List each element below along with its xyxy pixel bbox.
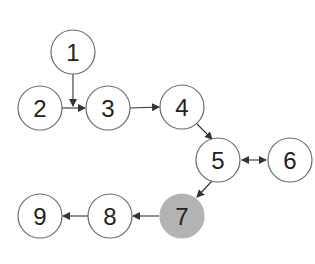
graph-diagram: 1 2 3 4 5 6 7 8 9 <box>0 0 315 264</box>
node-label: 4 <box>175 94 188 121</box>
node-label: 9 <box>33 203 46 230</box>
node-label: 6 <box>283 147 296 174</box>
node-7-highlighted: 7 <box>160 194 204 238</box>
node-5: 5 <box>196 138 240 182</box>
edge-5-to-7 <box>197 181 212 197</box>
node-9: 9 <box>18 194 62 238</box>
node-label: 3 <box>101 95 114 122</box>
node-label: 8 <box>103 203 116 230</box>
node-1: 1 <box>51 30 95 74</box>
node-4: 4 <box>160 85 204 129</box>
edge-4-to-5 <box>197 124 212 139</box>
node-2: 2 <box>18 86 62 130</box>
node-6: 6 <box>268 138 312 182</box>
node-label: 5 <box>211 147 224 174</box>
node-8: 8 <box>88 194 132 238</box>
node-label: 2 <box>33 95 46 122</box>
node-label: 1 <box>66 39 79 66</box>
node-3: 3 <box>86 86 130 130</box>
edge-3-to-4 <box>130 107 159 108</box>
node-label: 7 <box>175 203 188 230</box>
